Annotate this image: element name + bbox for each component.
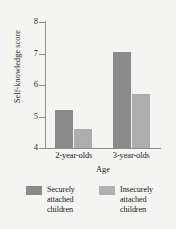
legend-swatch-icon-securely-attached [26, 186, 42, 195]
bar-2-year-olds-series-0 [55, 110, 73, 148]
legend-label-line: attached [120, 195, 146, 204]
bar-2-year-olds-series-1 [74, 129, 92, 148]
bar-3-year-olds-series-0 [113, 52, 131, 148]
x-axis-title: Age [45, 165, 161, 174]
legend-label-line: Securely [47, 185, 75, 194]
legend-swatch-icon-insecurely-attached [99, 186, 115, 195]
legend-label-securely-attached: Securely attached children [47, 185, 75, 216]
legend-item-securely-attached: Securely attached children [26, 185, 75, 216]
y-axis-tick-label: 8 [24, 17, 38, 26]
legend-label-line: attached [47, 195, 73, 204]
legend-item-insecurely-attached: Insecurely attached children [99, 185, 153, 216]
chart-legend: Securely attached children Insecurely at… [0, 185, 176, 227]
x-axis-tick-label: 3-year-olds [101, 151, 161, 160]
chart-figure: Self-knowledge score 87654 2-year-olds3-… [0, 0, 176, 229]
legend-label-line: children [47, 205, 73, 214]
x-axis-line [45, 148, 161, 149]
y-axis-tick-label: 7 [24, 49, 38, 58]
y-axis-title: Self-knowledge score [13, 12, 22, 122]
plot-area [45, 22, 160, 148]
y-axis-tick [39, 148, 46, 149]
legend-label-line: Insecurely [120, 185, 153, 194]
legend-label-insecurely-attached: Insecurely attached children [120, 185, 153, 216]
y-axis-tick-label: 4 [24, 143, 38, 152]
x-axis-tick-label: 2-year-olds [44, 151, 104, 160]
y-axis-tick-label: 6 [24, 80, 38, 89]
y-axis-tick-label: 5 [24, 112, 38, 121]
bar-3-year-olds-series-1 [132, 94, 150, 148]
legend-label-line: children [120, 205, 146, 214]
